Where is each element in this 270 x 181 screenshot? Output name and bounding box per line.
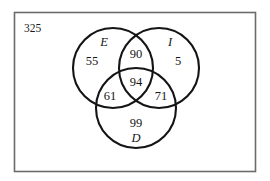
label-set-i: I [167, 35, 173, 49]
region-e-and-i-count: 90 [130, 47, 143, 61]
region-i-and-d-count: 71 [155, 89, 168, 103]
region-e-and-i-and-d-count: 94 [130, 75, 143, 89]
venn-diagram-figure: 325 E I D 55 5 99 90 61 71 94 [0, 0, 270, 181]
region-i-only-count: 5 [175, 54, 181, 68]
label-set-e: E [99, 35, 108, 49]
region-e-and-d-count: 61 [104, 89, 117, 103]
region-d-only-count: 99 [130, 116, 143, 130]
region-e-only-count: 55 [86, 54, 99, 68]
label-set-d: D [130, 131, 140, 145]
universal-set-count: 325 [24, 22, 42, 34]
